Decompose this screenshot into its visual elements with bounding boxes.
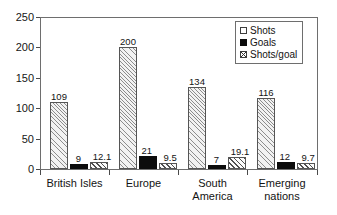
bar-value-shots-europe: 200: [120, 37, 136, 47]
shots-per-goal-swatch-icon: [240, 51, 247, 58]
legend-label-goals: Goals: [250, 38, 276, 48]
y-tick-label-0: 0: [0, 164, 34, 175]
y-tick-label-100: 100: [0, 103, 34, 114]
y-tick-label-200: 200: [0, 42, 34, 53]
bar-shots-europe: 200: [119, 47, 137, 169]
x-category-line: Emerging: [247, 177, 317, 190]
bar-value-goals-south-america: 7: [214, 155, 219, 165]
legend-item-goals: Goals: [240, 37, 297, 48]
bar-shots-per-goal-british-isles: 12.1: [90, 162, 108, 169]
x-category-line: Europe: [109, 177, 178, 190]
bar-shots-british-isles: 109: [50, 102, 68, 169]
bar-value-goals-emerging-nations: 12: [279, 152, 290, 162]
legend: Shots Goals Shots/goal: [235, 21, 303, 64]
bar-value-shots-british-isles: 109: [51, 92, 67, 102]
y-tick-label-150: 150: [0, 73, 34, 84]
bar-value-shots-emerging-nations: 116: [258, 88, 273, 98]
x-category-label-emerging-nations: Emerging nations: [247, 177, 317, 202]
x-tick-mark-2: [178, 170, 179, 175]
legend-item-shots: Shots: [240, 25, 297, 36]
x-tick-mark-4: [317, 170, 318, 175]
bar-value-shots-south-america: 134: [189, 77, 205, 87]
legend-label-shots-per-goal: Shots/goal: [250, 50, 297, 60]
goals-swatch-icon: [240, 39, 247, 46]
bar-chart: 250 200 150 100 50 0 109 9 12.1: [0, 0, 337, 215]
bar-goals-emerging-nations: 12: [277, 162, 295, 169]
bar-value-shots-per-goal-south-america: 19.1: [231, 147, 249, 157]
bar-goals-british-isles: 9: [70, 164, 88, 170]
bar-shots-per-goal-emerging-nations: 9.7: [297, 163, 315, 169]
x-category-label-south-america: South America: [178, 177, 247, 202]
bar-value-shots-per-goal-emerging-nations: 9.7: [302, 153, 315, 163]
legend-label-shots: Shots: [250, 26, 276, 36]
x-tick-mark-1: [109, 170, 110, 175]
bar-value-goals-europe: 21: [141, 146, 152, 156]
bar-shots-emerging-nations: 116: [257, 98, 275, 169]
x-category-label-europe: Europe: [109, 177, 178, 190]
legend-item-shots-per-goal: Shots/goal: [240, 49, 297, 60]
x-tick-mark-0: [40, 170, 41, 175]
bar-value-shots-per-goal-british-isles: 12.1: [93, 152, 112, 162]
bar-shots-per-goal-europe: 9.5: [159, 163, 177, 169]
y-tick-label-250: 250: [0, 12, 34, 23]
x-tick-mark-3: [247, 170, 248, 175]
x-category-line: nations: [247, 190, 317, 203]
x-category-label-british-isles: British Isles: [40, 177, 109, 190]
bar-goals-south-america: 7: [208, 165, 226, 169]
shots-swatch-icon: [240, 27, 247, 34]
x-category-line: British Isles: [40, 177, 109, 190]
bar-goals-europe: 21: [139, 156, 157, 169]
bar-group-british-isles: 109 9 12.1: [47, 18, 110, 169]
y-axis: 250 200 150 100 50 0: [0, 0, 34, 215]
bar-value-goals-british-isles: 9: [76, 154, 81, 164]
x-category-line: South: [178, 177, 247, 190]
y-tick-label-50: 50: [0, 134, 34, 145]
x-category-line: America: [178, 190, 247, 203]
bar-group-europe: 200 21 9.5: [116, 18, 179, 169]
bar-shots-per-goal-south-america: 19.1: [228, 157, 246, 169]
bar-shots-south-america: 134: [188, 87, 206, 169]
bar-value-shots-per-goal-europe: 9.5: [164, 153, 177, 163]
